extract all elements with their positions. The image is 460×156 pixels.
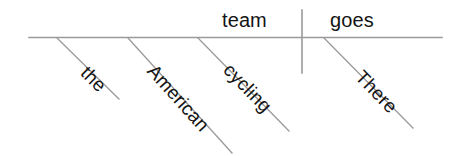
word-team: team xyxy=(222,10,267,30)
word-goes: goes xyxy=(330,10,374,30)
sentence-diagram: team goes the American cycling There xyxy=(0,0,460,156)
